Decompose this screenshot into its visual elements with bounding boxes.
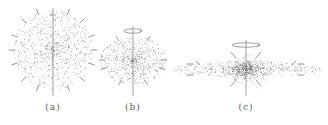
inward-arrow-icon <box>12 35 18 37</box>
inward-arrow-icon <box>256 80 261 86</box>
inward-arrow-icon <box>22 77 26 81</box>
inward-arrow-icon <box>89 63 95 65</box>
infall-arrows <box>187 52 304 86</box>
inward-arrow-icon <box>37 9 39 15</box>
inward-arrow-icon <box>37 85 39 91</box>
inward-arrow-icon <box>196 61 200 65</box>
panel-b-flattening-cloud <box>99 26 167 96</box>
inward-arrow-icon <box>145 80 148 84</box>
inward-arrow-icon <box>22 19 26 23</box>
panel-c-disk-cloud <box>173 40 321 96</box>
inward-arrow-icon <box>159 68 165 70</box>
inward-arrow-icon <box>80 77 84 81</box>
caption-c: (c) <box>238 102 253 112</box>
rotation-arrowhead-icon <box>258 43 261 47</box>
inward-arrow-icon <box>67 85 69 91</box>
inward-arrow-icon <box>101 68 107 70</box>
inward-arrow-icon <box>80 19 84 23</box>
inward-arrow-icon <box>12 63 18 65</box>
panel-a-spherical-cloud <box>9 8 97 96</box>
inward-arrow-icon <box>256 52 261 58</box>
inward-arrow-icon <box>67 9 69 15</box>
inward-arrow-icon <box>231 52 236 58</box>
particle-cloud <box>173 55 321 89</box>
inward-arrow-icon <box>292 61 296 65</box>
caption-b: (b) <box>125 102 141 112</box>
caption-a: (a) <box>45 102 60 112</box>
inward-arrow-icon <box>89 35 95 37</box>
inward-arrow-icon <box>116 36 119 40</box>
